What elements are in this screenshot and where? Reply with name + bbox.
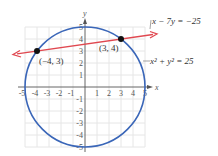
svg-text:2: 2 [79,59,83,68]
x-axis-label: x [154,83,159,92]
circle-equation-label: x² + y² = 25 [149,56,194,66]
y-axis-label: y [82,9,87,18]
svg-text:2: 2 [107,89,111,98]
y-axis-arrow-icon [83,18,87,24]
svg-text:-4: -4 [32,89,39,98]
circle-line-intersection-figure: x y -5 -4 -3 -2 -1 1 2 3 4 5 5 4 3 2 1 -… [0,0,218,156]
svg-text:-1: -1 [76,95,83,104]
svg-text:1: 1 [95,89,99,98]
svg-text:-2: -2 [56,89,63,98]
svg-text:-1: -1 [68,89,75,98]
svg-text:4: 4 [79,35,83,44]
svg-text:-3: -3 [76,119,83,128]
x-axis: x [18,83,159,92]
line-equation-leader [150,20,151,29]
point-label-right: (3, 4) [99,43,119,53]
svg-text:3: 3 [79,47,83,56]
x-axis-arrow-icon [147,85,153,89]
y-tick-labels: 5 4 3 2 1 -1 -2 -3 -4 -5 [76,23,83,152]
svg-text:-4: -4 [76,131,83,140]
intersection-point-left [34,48,40,54]
point-label-left: (−4, 3) [39,56,64,66]
svg-text:1: 1 [79,71,83,80]
intersection-point-right [118,36,124,42]
svg-text:-3: -3 [44,89,51,98]
svg-text:3: 3 [119,89,123,98]
svg-text:-2: -2 [76,107,83,116]
line-equation-label: x − 7y = −25 [151,16,201,26]
svg-text:4: 4 [131,89,135,98]
